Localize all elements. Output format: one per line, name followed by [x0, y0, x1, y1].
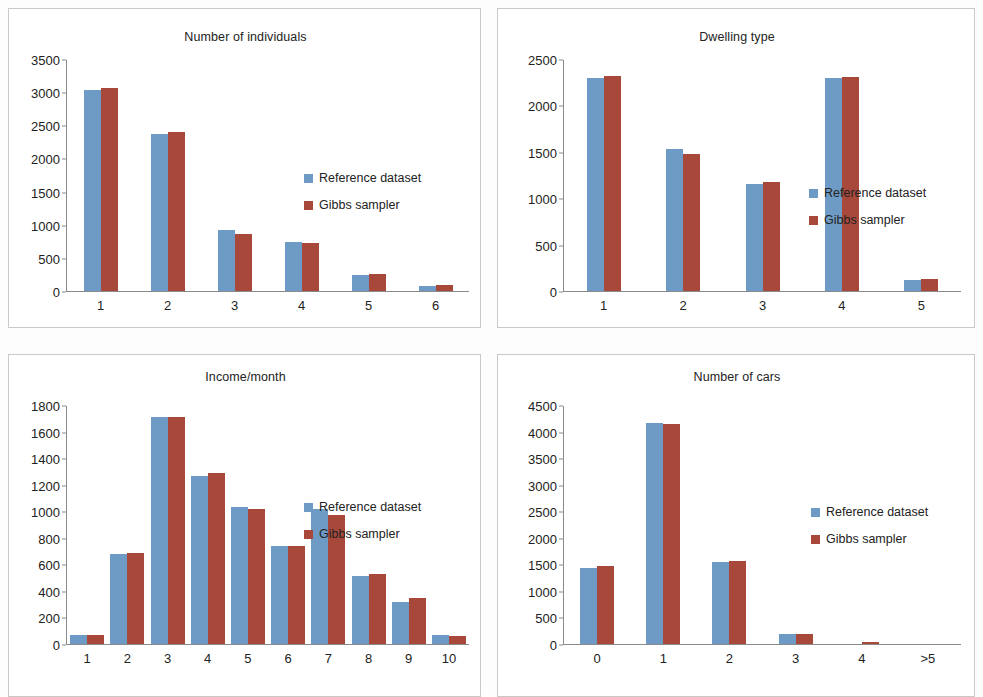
x-axis-tick-label: 3	[147, 651, 187, 666]
x-axis-tick-label: 10	[429, 651, 469, 666]
legend-label-reference-dataset: Reference dataset	[319, 171, 421, 185]
x-axis-tick-label: 1	[630, 651, 696, 666]
x-axis-tick-label: 5	[335, 298, 402, 313]
bar-gibbs-sampler	[729, 561, 746, 644]
y-axis-tick-mark	[559, 106, 563, 107]
x-axis-tick-label: 1	[564, 298, 643, 313]
y-axis-tick-label: 3000	[528, 478, 557, 493]
y-axis-tick-label: 1000	[31, 505, 60, 520]
bar-reference-dataset	[392, 602, 409, 644]
chart-title: Dwelling type	[499, 30, 975, 44]
y-axis-tick-mark	[559, 245, 563, 246]
legend-item-reference-dataset: Reference dataset	[811, 505, 928, 519]
y-axis-tick-label: 2500	[528, 53, 557, 68]
bar-reference-dataset	[231, 507, 248, 645]
legend-swatch-icon-reference-dataset	[304, 503, 313, 512]
bar-gibbs-sampler	[796, 634, 813, 644]
bar-category-group: 4	[188, 406, 228, 644]
x-axis-tick-label: 1	[67, 298, 134, 313]
y-axis-tick-label: 1800	[31, 399, 60, 414]
y-axis-tick-label: 1400	[31, 452, 60, 467]
y-axis-tick-label: 0	[53, 638, 60, 653]
x-axis-line	[66, 644, 469, 645]
bar-reference-dataset	[904, 280, 921, 291]
bar-category-group: 5	[228, 406, 268, 644]
y-axis-tick-label: 800	[38, 531, 60, 546]
bar-gibbs-sampler	[87, 635, 104, 644]
y-axis-tick-mark	[559, 199, 563, 200]
bar-gibbs-sampler	[248, 509, 265, 644]
y-axis-tick-mark	[62, 512, 66, 513]
legend-item-reference-dataset: Reference dataset	[809, 186, 926, 200]
legend-item-reference-dataset: Reference dataset	[304, 171, 421, 185]
y-axis-tick-mark	[559, 538, 563, 539]
y-axis-tick-mark	[62, 225, 66, 226]
bar-reference-dataset	[580, 568, 597, 644]
chart-panel-number-of-individuals: Number of individuals 050010001500200025…	[0, 0, 491, 340]
y-axis-tick-mark	[62, 192, 66, 193]
x-axis-tick-label: 4	[829, 651, 895, 666]
y-axis-tick-mark	[559, 618, 563, 619]
y-axis-tick-label: 1500	[528, 145, 557, 160]
bar-gibbs-sampler	[921, 279, 938, 291]
legend-label-gibbs-sampler: Gibbs sampler	[824, 213, 905, 227]
legend-label-gibbs-sampler: Gibbs sampler	[319, 527, 400, 541]
legend-swatch-icon-gibbs-sampler	[304, 201, 313, 210]
x-axis-tick-label: 3	[201, 298, 268, 313]
bar-category-group: 0	[564, 406, 630, 644]
bar-category-group: 1	[630, 406, 696, 644]
legend-swatch-icon-reference-dataset	[809, 189, 818, 198]
chart-legend: Reference dataset Gibbs sampler	[809, 186, 926, 227]
y-axis-tick-mark	[62, 126, 66, 127]
bar-gibbs-sampler	[208, 473, 225, 644]
bar-category-group: 2	[107, 406, 147, 644]
y-axis-tick-label: 1500	[528, 558, 557, 573]
y-axis-tick-mark	[62, 292, 66, 293]
x-axis-tick-label: 2	[643, 298, 722, 313]
legend-swatch-icon-gibbs-sampler	[809, 216, 818, 225]
y-axis-tick-label: 2500	[528, 505, 557, 520]
y-axis-tick-mark	[559, 60, 563, 61]
legend-item-reference-dataset: Reference dataset	[304, 500, 421, 514]
bar-gibbs-sampler	[597, 566, 614, 644]
bar-gibbs-sampler	[409, 598, 426, 644]
x-axis-tick-label: 4	[268, 298, 335, 313]
chart-panel-number-of-cars: Number of cars 0500100015002000250030003…	[491, 340, 983, 695]
bar-reference-dataset	[110, 554, 127, 644]
y-axis-tick-label: 4000	[528, 425, 557, 440]
bar-category-group: 3	[147, 406, 187, 644]
y-axis-tick-label: 1200	[31, 478, 60, 493]
chart-panel-income-per-month: Income/month 020040060080010001200140016…	[0, 340, 491, 695]
y-axis-tick-label: 3500	[31, 53, 60, 68]
chart-panel-dwelling-type: Dwelling type 05001000150020002500 12345…	[491, 0, 983, 340]
y-axis-tick-label: 500	[38, 251, 60, 266]
y-axis-tick-mark	[62, 60, 66, 61]
bar-gibbs-sampler	[127, 553, 144, 644]
bar-gibbs-sampler	[369, 574, 386, 644]
bar-gibbs-sampler	[449, 636, 466, 644]
bar-gibbs-sampler	[168, 417, 185, 644]
plot-area: 05001000150020002500 12345	[563, 60, 961, 292]
y-axis-tick-label: 2500	[31, 119, 60, 134]
y-axis-tick-mark	[559, 591, 563, 592]
y-axis-tick-mark	[62, 459, 66, 460]
bar-category-group: 2	[643, 60, 722, 291]
y-axis-tick-label: 0	[550, 285, 557, 300]
y-axis-tick-mark	[559, 292, 563, 293]
legend-label-gibbs-sampler: Gibbs sampler	[319, 198, 400, 212]
y-axis-tick-mark	[62, 538, 66, 539]
bar-reference-dataset	[779, 634, 796, 644]
y-axis-tick-mark	[62, 591, 66, 592]
bar-reference-dataset	[352, 275, 369, 292]
legend-item-gibbs-sampler: Gibbs sampler	[304, 198, 421, 212]
y-axis-tick-label: 3500	[528, 452, 557, 467]
bar-gibbs-sampler	[862, 642, 879, 644]
bar-reference-dataset	[666, 149, 683, 291]
legend-swatch-icon-reference-dataset	[304, 174, 313, 183]
bar-gibbs-sampler	[302, 243, 319, 291]
chart-title: Number of individuals	[8, 30, 483, 44]
bar-reference-dataset	[285, 242, 302, 291]
chart-legend: Reference dataset Gibbs sampler	[304, 171, 421, 212]
legend-item-gibbs-sampler: Gibbs sampler	[809, 213, 926, 227]
